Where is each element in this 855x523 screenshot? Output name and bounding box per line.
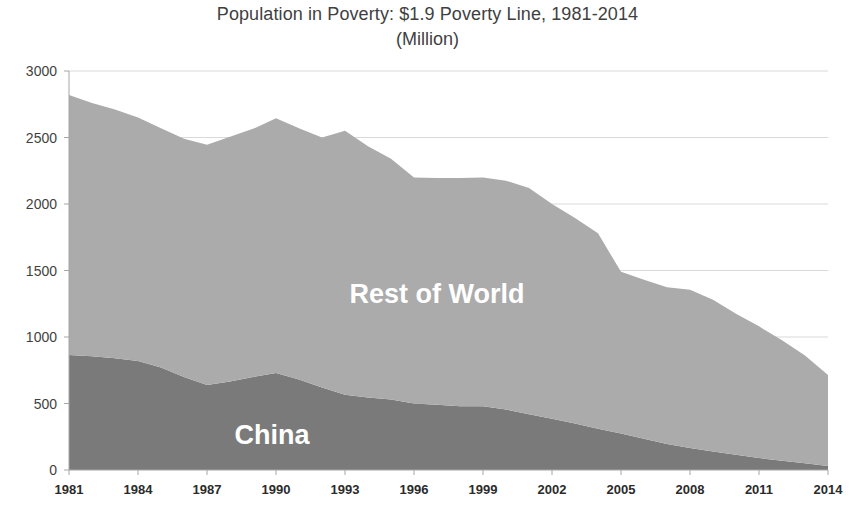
xtick-label-2011: 2011 <box>745 482 773 497</box>
xtick-label-1996: 1996 <box>400 482 429 497</box>
xtick-label-2008: 2008 <box>676 482 705 497</box>
xtick-label-1987: 1987 <box>193 482 222 497</box>
xtick-label-2005: 2005 <box>607 482 636 497</box>
ytick-label-1000: 1000 <box>26 329 57 345</box>
xtick-label-1984: 1984 <box>124 482 154 497</box>
area-chart-svg: 050010001500200025003000 198119841987199… <box>0 0 855 523</box>
ytick-label-3000: 3000 <box>26 63 57 79</box>
xtick-label-2014: 2014 <box>814 482 844 497</box>
chart-container: Population in Poverty: $1.9 Poverty Line… <box>0 0 855 523</box>
xtick-label-2002: 2002 <box>538 482 567 497</box>
ytick-label-0: 0 <box>49 462 57 478</box>
xtick-label-1981: 1981 <box>55 482 84 497</box>
xtick-label-1990: 1990 <box>262 482 291 497</box>
ytick-label-2500: 2500 <box>26 130 57 146</box>
series-label-rest-of-world: Rest of World <box>350 279 525 309</box>
ytick-label-1500: 1500 <box>26 263 57 279</box>
ytick-labels-group: 050010001500200025003000 <box>26 63 57 478</box>
ytick-label-500: 500 <box>34 396 58 412</box>
xtick-labels-group: 1981198419871990199319961999200220052008… <box>55 482 844 497</box>
xtick-label-1999: 1999 <box>469 482 498 497</box>
ytick-label-2000: 2000 <box>26 196 57 212</box>
xtick-label-1993: 1993 <box>331 482 360 497</box>
series-label-china: China <box>234 420 310 450</box>
